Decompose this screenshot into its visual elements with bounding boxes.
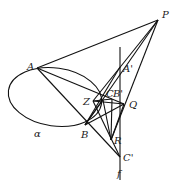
line-P-Z: [93, 20, 158, 101]
label-B: B: [80, 129, 88, 140]
line-C-R: [103, 100, 111, 140]
label-A-prime: A': [122, 63, 133, 74]
label-A: A: [26, 61, 34, 72]
label-f: f: [116, 168, 123, 179]
label-R: R: [113, 135, 122, 146]
line-PA: [37, 20, 158, 68]
label-Q: Q: [129, 99, 137, 110]
label-C-prime: C': [123, 152, 133, 163]
label-B-prime: B': [112, 88, 123, 99]
line-Bprime-R: [111, 99, 112, 140]
geometry-diagram: P A A' Z C B' Q B R C' α f: [0, 0, 176, 188]
label-Z: Z: [82, 96, 91, 107]
label-alpha: α: [34, 128, 41, 139]
line-Z-Cprime: [93, 101, 120, 157]
label-P: P: [161, 9, 169, 20]
